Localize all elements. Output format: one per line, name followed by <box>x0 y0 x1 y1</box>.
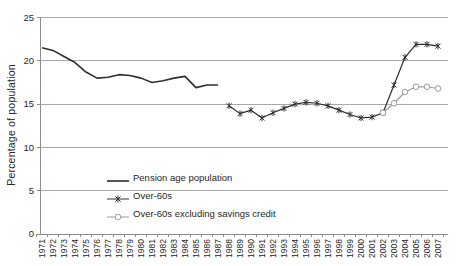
svg-text:1992: 1992 <box>268 239 278 258</box>
asterisk-marker-icon <box>107 190 129 200</box>
solid-line-swatch-icon <box>107 172 129 182</box>
svg-text:1978: 1978 <box>114 239 124 258</box>
svg-text:2002: 2002 <box>378 239 388 258</box>
series-2 <box>380 84 441 116</box>
svg-text:1988: 1988 <box>224 239 234 258</box>
svg-text:1983: 1983 <box>169 239 179 258</box>
svg-text:1979: 1979 <box>125 239 135 258</box>
svg-text:1973: 1973 <box>59 239 69 258</box>
svg-text:2000: 2000 <box>356 239 366 258</box>
svg-text:2003: 2003 <box>389 239 399 258</box>
svg-text:1977: 1977 <box>103 239 113 258</box>
legend-item-over-60s-excl: Over-60s excluding savings credit <box>107 204 276 222</box>
svg-text:5: 5 <box>29 185 34 196</box>
svg-text:1994: 1994 <box>290 239 300 258</box>
y-axis-tick-labels: 0510152025 <box>23 12 34 240</box>
svg-text:1975: 1975 <box>81 239 91 258</box>
svg-text:1999: 1999 <box>345 239 355 258</box>
svg-text:1998: 1998 <box>334 239 344 258</box>
svg-text:1996: 1996 <box>312 239 322 258</box>
svg-text:1981: 1981 <box>147 239 157 258</box>
svg-text:20: 20 <box>23 55 34 66</box>
y-axis-title: Percentage of population <box>5 45 17 205</box>
legend-label: Over-60s excluding savings credit <box>133 208 276 219</box>
svg-text:2005: 2005 <box>411 239 421 258</box>
svg-text:1974: 1974 <box>70 239 80 258</box>
svg-text:1993: 1993 <box>279 239 289 258</box>
svg-text:1982: 1982 <box>158 239 168 258</box>
legend-item-pension-age: Pension age population <box>107 168 276 186</box>
svg-text:2006: 2006 <box>422 239 432 258</box>
svg-text:10: 10 <box>23 142 34 153</box>
svg-text:1971: 1971 <box>37 239 47 258</box>
legend: Pension age population Over-60s Over-6 <box>107 168 276 222</box>
legend-label: Over-60s <box>133 190 172 201</box>
svg-text:1997: 1997 <box>323 239 333 258</box>
svg-text:1976: 1976 <box>92 239 102 258</box>
svg-text:1972: 1972 <box>48 239 58 258</box>
svg-text:2004: 2004 <box>400 239 410 258</box>
svg-text:1990: 1990 <box>246 239 256 258</box>
svg-text:2007: 2007 <box>433 239 443 258</box>
svg-text:1989: 1989 <box>235 239 245 258</box>
svg-text:1987: 1987 <box>213 239 223 258</box>
x-axis-tick-labels: 1971197219731974197519761977197819791980… <box>37 239 443 258</box>
legend-label: Pension age population <box>133 172 232 183</box>
line-chart: 0510152025197119721973197419751976197719… <box>0 0 457 266</box>
svg-text:1985: 1985 <box>191 239 201 258</box>
svg-text:15: 15 <box>23 98 34 109</box>
svg-text:1984: 1984 <box>180 239 190 258</box>
svg-text:1986: 1986 <box>202 239 212 258</box>
svg-text:1995: 1995 <box>301 239 311 258</box>
svg-text:0: 0 <box>29 228 34 239</box>
svg-text:2001: 2001 <box>367 239 377 258</box>
legend-item-over-60s: Over-60s <box>107 186 276 204</box>
svg-text:1980: 1980 <box>136 239 146 258</box>
series-1 <box>227 41 441 121</box>
series-0 <box>42 48 218 88</box>
svg-text:25: 25 <box>23 12 34 23</box>
chart-container: 0510152025197119721973197419751976197719… <box>0 0 457 266</box>
circle-marker-icon <box>107 208 129 218</box>
svg-text:1991: 1991 <box>257 239 267 258</box>
